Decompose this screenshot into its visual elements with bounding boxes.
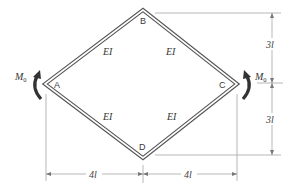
frame-diagram: B A C D EI EI EI EI M0 M0 bbox=[0, 0, 295, 192]
dim-right-top-label: 3l bbox=[265, 39, 274, 50]
moment-right-label: M0 bbox=[254, 71, 267, 83]
node-b-label: B bbox=[140, 16, 146, 26]
dim-bottom-right-label: 4l bbox=[184, 169, 192, 180]
moment-arrow-left-icon bbox=[33, 70, 41, 99]
member-ad-ei-label: EI bbox=[102, 111, 113, 122]
dimension-lines bbox=[46, 13, 283, 183]
node-a-label: A bbox=[54, 80, 60, 90]
rhombic-frame bbox=[45, 10, 237, 158]
node-c-label: C bbox=[219, 80, 226, 90]
moment-left-label: M0 bbox=[14, 71, 27, 83]
dimension-arrowheads bbox=[46, 13, 274, 176]
member-ab-ei-label: EI bbox=[102, 46, 113, 57]
dim-bottom-left-label: 4l bbox=[89, 169, 97, 180]
dim-right-bottom-label: 3l bbox=[265, 114, 274, 125]
member-dc-ei-label: EI bbox=[166, 111, 177, 122]
moment-arrow-right-icon bbox=[243, 70, 251, 99]
member-bc-ei-label: EI bbox=[165, 46, 176, 57]
node-d-label: D bbox=[139, 142, 146, 152]
